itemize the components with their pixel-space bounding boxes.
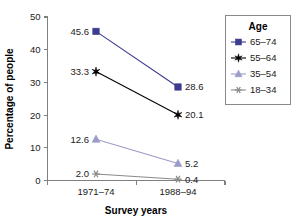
data-label: 2.0 [76,168,89,179]
y-axis-ticks: 01020304050 [30,11,48,186]
x-tick-label: 1971–74 [78,186,115,197]
y-tick-label: 0 [35,175,40,186]
series-polyline [96,174,178,179]
series-65-74 [93,28,181,90]
legend-title: Age [249,21,268,32]
series-marker-asterisk [174,176,182,183]
legend-item-label: 18–34 [250,84,276,95]
x-axis-ticks: 1971–741988–94 [48,181,226,197]
series-55-64 [92,67,182,119]
data-labels-layer: 45.628.633.320.112.65.22.00.4 [71,26,204,185]
y-tick-label: 40 [30,44,41,55]
series-layer [92,28,182,182]
line-chart: 01020304050 1971–741988–94 Percentage of… [0,0,298,224]
y-axis-title: Percentage of people [4,48,15,150]
series-marker-star [92,67,100,76]
data-label: 0.4 [185,174,198,185]
y-tick-label: 50 [30,11,41,22]
series-marker-square [236,39,242,45]
series-polyline [96,139,178,163]
data-label: 33.3 [71,66,90,77]
series-marker-square [93,28,99,34]
x-axis-title: Survey years [105,205,168,216]
series-35-54 [92,135,182,166]
y-tick-label: 20 [30,110,41,121]
data-label: 20.1 [185,109,204,120]
series-marker-star [174,110,182,119]
series-marker-asterisk [92,171,100,178]
legend[interactable]: Age 65–7455–6435–5418–34 [226,16,291,105]
y-tick-label: 30 [30,77,41,88]
data-label: 28.6 [185,81,204,92]
data-label: 45.6 [71,26,90,37]
data-label: 12.6 [71,134,90,145]
x-tick-label: 1988–94 [160,186,197,197]
series-marker-square [175,84,181,90]
series-marker-triangle [92,135,100,142]
legend-item-label: 55–64 [250,52,276,63]
chart-canvas: 01020304050 1971–741988–94 Percentage of… [0,0,298,224]
legend-item-label: 35–54 [250,68,276,79]
legend-item-label: 65–74 [250,36,276,47]
data-label: 5.2 [185,158,198,169]
y-tick-label: 10 [30,142,41,153]
